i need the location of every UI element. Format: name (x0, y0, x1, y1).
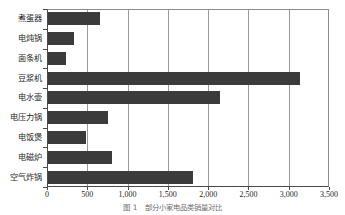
y-tick-row: 豆浆机 (0, 68, 45, 88)
y-axis-label: 电磁炉 (18, 153, 42, 162)
y-tick-row: 煮蛋器 (0, 9, 45, 29)
y-axis: 煮蛋器 电炖锅 面条机 豆浆机 电水壶 电压力锅 电饭煲 电磁炉 空气炸锅 (0, 9, 45, 187)
y-tick-row: 电压力锅 (0, 108, 45, 128)
bar-row (47, 29, 329, 49)
y-axis-label: 电水壶 (18, 93, 42, 102)
bar[interactable] (47, 131, 86, 144)
x-axis-tick-label: 0 (45, 190, 49, 200)
bar[interactable] (47, 171, 193, 184)
x-axis-tick-label: 3,000 (280, 190, 298, 200)
bar[interactable] (47, 32, 74, 45)
y-axis-label: 豆浆机 (18, 74, 42, 83)
x-axis-tick-label: 500 (81, 190, 93, 200)
y-tick-row: 空气炸锅 (0, 167, 45, 187)
bar[interactable] (47, 111, 108, 124)
bar-row (47, 128, 329, 148)
x-axis-tick-label: 2,500 (239, 190, 257, 200)
x-axis-tick-label: 2,000 (199, 190, 217, 200)
y-tick-row: 面条机 (0, 49, 45, 69)
y-axis-label: 电饭煲 (18, 133, 42, 142)
bar-chart-figure: 煮蛋器 电炖锅 面条机 豆浆机 电水壶 电压力锅 电饭煲 电磁炉 空气炸锅 (0, 0, 345, 215)
y-tick-row: 电磁炉 (0, 147, 45, 167)
y-tick-row: 电饭煲 (0, 128, 45, 148)
y-axis-label: 煮蛋器 (18, 14, 42, 23)
y-axis-label: 电压力锅 (10, 113, 42, 122)
y-tick-row: 电炖锅 (0, 29, 45, 49)
bar[interactable] (47, 151, 112, 164)
bar-row (47, 68, 329, 88)
x-axis-tick-label: 1,500 (159, 190, 177, 200)
figure-caption: 图 1 部分小家电品类销量对比 (0, 203, 345, 212)
bar[interactable] (47, 72, 300, 85)
x-axis-tick-label: 1,000 (119, 190, 137, 200)
bar[interactable] (47, 12, 100, 25)
bar-row (47, 147, 329, 167)
y-tick-row: 电水壶 (0, 88, 45, 108)
y-axis-label: 面条机 (18, 54, 42, 63)
bar-series (47, 9, 329, 187)
y-axis-label: 空气炸锅 (10, 173, 42, 182)
x-axis-tick-label: 3,500 (320, 190, 338, 200)
bar[interactable] (47, 91, 220, 104)
plot-area (47, 9, 329, 187)
bar-row (47, 167, 329, 187)
bar-row (47, 108, 329, 128)
bar[interactable] (47, 52, 66, 65)
bar-row (47, 49, 329, 69)
bar-row (47, 88, 329, 108)
bar-row (47, 9, 329, 29)
y-axis-label: 电炖锅 (18, 34, 42, 43)
